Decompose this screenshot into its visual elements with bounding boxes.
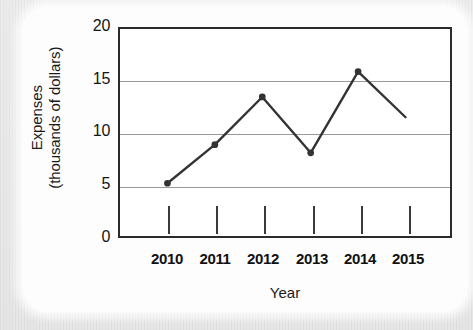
data-point-2011 <box>211 141 218 148</box>
y-axis-title-line-1: Expenses <box>28 8 46 228</box>
series-line <box>167 72 405 184</box>
data-point-2014 <box>355 68 362 75</box>
series-markers <box>164 68 361 186</box>
y-tick-label-20: 20 <box>76 17 110 35</box>
line-chart-figure: Expenses (thousands of dollars) 20 15 10… <box>0 0 473 330</box>
y-tick-label-0: 0 <box>76 228 110 246</box>
series-expenses <box>120 29 450 236</box>
screenshot-root: Expenses (thousands of dollars) 20 15 10… <box>0 0 473 330</box>
y-tick-label-5: 5 <box>76 175 110 193</box>
x-tick-label-2015: 2015 <box>378 250 438 267</box>
data-point-2012 <box>259 94 266 101</box>
y-tick-label-15: 15 <box>76 70 110 88</box>
data-point-2010 <box>164 180 171 187</box>
x-axis-title: Year <box>118 284 452 301</box>
y-axis-title: Expenses (thousands of dollars) <box>28 8 63 228</box>
data-point-2013 <box>307 149 314 156</box>
y-axis-title-line-2: (thousands of dollars) <box>46 8 64 228</box>
plot-area <box>118 27 452 238</box>
y-tick-label-10: 10 <box>76 122 110 140</box>
